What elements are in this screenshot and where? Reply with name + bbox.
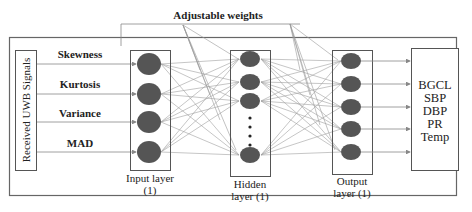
output-arrows	[361, 61, 410, 152]
output-temp: Temp	[421, 130, 449, 144]
output-dbp: DBP	[423, 104, 447, 118]
output-pr: PR	[427, 117, 443, 131]
signal-source-label: Received UWB Signals	[20, 58, 32, 162]
hidden-output-connections	[261, 59, 341, 155]
output-layer-count: layer (1)	[333, 187, 371, 200]
output-node	[341, 53, 361, 69]
feature-label-kurtosis: Kurtosis	[60, 78, 101, 90]
output-bgcl: BGCL	[418, 78, 451, 92]
input-layer-nodes	[137, 53, 161, 163]
input-layer-count: (1)	[144, 184, 157, 197]
hidden-node	[240, 51, 260, 67]
adjustable-weights-bracket	[121, 24, 300, 46]
output-node	[341, 76, 361, 92]
feature-label-skewness: Skewness	[58, 48, 103, 60]
output-node	[341, 144, 361, 160]
output-sbp: SBP	[424, 91, 446, 105]
hidden-node	[240, 74, 260, 90]
input-node	[137, 141, 161, 163]
hidden-layer-label: Hidden	[234, 178, 267, 190]
hidden-node	[240, 93, 260, 109]
input-node	[137, 53, 161, 75]
output-layer-label: Output	[337, 175, 368, 187]
output-node	[341, 121, 361, 137]
hidden-ellipsis-dots	[248, 116, 251, 146]
hidden-node	[240, 147, 260, 163]
feature-label-variance: Variance	[59, 107, 101, 119]
input-hidden-connections	[161, 59, 239, 155]
hidden-layer-count: layer (1)	[231, 190, 269, 203]
adjustable-weights-label: Adjustable weights	[173, 9, 263, 21]
input-layer-label: Input layer	[126, 172, 174, 184]
output-node	[341, 99, 361, 115]
ann-diagram: Adjustable weights Received UWB Signals …	[0, 0, 472, 212]
feature-label-mad: MAD	[67, 137, 93, 149]
output-layer-nodes	[341, 53, 361, 160]
input-node	[137, 111, 161, 133]
input-node	[137, 83, 161, 105]
